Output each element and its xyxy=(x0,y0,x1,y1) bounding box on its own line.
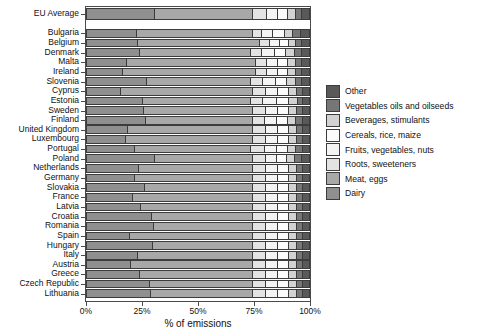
bar-row[interactable] xyxy=(86,183,310,192)
bar-latvia[interactable] xyxy=(86,203,310,212)
legend-item[interactable]: Meat, eggs xyxy=(326,172,476,187)
y-axis-label-portugal: Portugal xyxy=(0,144,79,153)
bar-ireland[interactable] xyxy=(86,68,310,77)
legend-item[interactable]: Fruits, vegetables, nuts xyxy=(326,142,476,157)
bar-row[interactable] xyxy=(86,39,310,48)
bar-row[interactable] xyxy=(86,77,310,86)
bar-row[interactable] xyxy=(86,97,310,106)
bar-row-eu-average[interactable] xyxy=(86,8,310,20)
bar-row[interactable] xyxy=(86,212,310,221)
bar-row[interactable] xyxy=(86,289,310,298)
bar-segment-fruits-vegetables-nuts xyxy=(263,98,276,105)
bar-row[interactable] xyxy=(86,154,310,163)
bar-row[interactable] xyxy=(86,145,310,154)
bar-croatia[interactable] xyxy=(86,212,310,221)
bar-row[interactable] xyxy=(86,241,310,250)
bar-row[interactable] xyxy=(86,48,310,57)
bar-segment-roots-sweeteners xyxy=(253,242,265,249)
y-axis-tick xyxy=(81,217,85,218)
bar-segment-roots-sweeteners xyxy=(253,204,265,211)
bar-row[interactable] xyxy=(86,125,310,134)
x-axis-title: % of emissions xyxy=(85,318,311,329)
bar-denmark[interactable] xyxy=(86,48,310,57)
bar-row[interactable] xyxy=(86,135,310,144)
bar-cyprus[interactable] xyxy=(86,87,310,96)
bar-segment-dairy xyxy=(87,30,137,37)
bar-germany[interactable] xyxy=(86,174,310,183)
bar-romania[interactable] xyxy=(86,222,310,231)
bar-row[interactable] xyxy=(86,174,310,183)
bar-malta[interactable] xyxy=(86,58,310,67)
bar-segment-vegetables-oils-and-oilseeds xyxy=(296,40,303,47)
bar-bulgaria[interactable] xyxy=(86,29,310,38)
bar-row[interactable] xyxy=(86,260,310,269)
bar-netherlands[interactable] xyxy=(86,164,310,173)
bar-italy[interactable] xyxy=(86,251,310,260)
bar-segment-fruits-vegetables-nuts xyxy=(266,175,278,182)
bar-row[interactable] xyxy=(86,193,310,202)
bar-greece[interactable] xyxy=(86,270,310,279)
bar-luxembourg[interactable] xyxy=(86,135,310,144)
bar-segment-vegetables-oils-and-oilseeds xyxy=(295,49,303,56)
bar-segment-fruits-vegetables-nuts xyxy=(266,155,277,162)
bar-czech-republic[interactable] xyxy=(86,280,310,289)
bar-segment-dairy xyxy=(87,107,144,114)
bar-segment-beverages-stimulants xyxy=(289,88,297,95)
y-axis-label-poland: Poland xyxy=(0,154,79,163)
bar-row[interactable] xyxy=(86,87,310,96)
bar-segment-fruits-vegetables-nuts xyxy=(266,242,278,249)
bar-segment-other xyxy=(303,175,309,182)
bar-eu-average[interactable] xyxy=(86,8,310,20)
bar-austria[interactable] xyxy=(86,260,310,269)
bar-france[interactable] xyxy=(86,193,310,202)
bar-segment-roots-sweeteners xyxy=(253,184,265,191)
bar-united-kingdom[interactable] xyxy=(86,125,310,134)
legend-item[interactable]: Vegetables oils and oilseeds xyxy=(326,99,476,114)
bar-row[interactable] xyxy=(86,58,310,67)
bar-segment-fruits-vegetables-nuts xyxy=(266,213,278,220)
legend-item[interactable]: Dairy xyxy=(326,186,476,201)
bar-row[interactable] xyxy=(86,116,310,125)
bar-segment-roots-sweeteners xyxy=(251,98,263,105)
y-axis-label-slovenia: Slovenia xyxy=(0,77,79,86)
bar-finland[interactable] xyxy=(86,116,310,125)
bar-row[interactable] xyxy=(86,203,310,212)
bar-segment-vegetables-oils-and-oilseeds xyxy=(295,155,302,162)
bar-slovakia[interactable] xyxy=(86,183,310,192)
bar-row[interactable] xyxy=(86,280,310,289)
bar-segment-fruits-vegetables-nuts xyxy=(266,290,278,297)
y-axis-tick xyxy=(81,139,85,140)
x-axis-tick-label: 50% xyxy=(178,306,218,316)
legend-item[interactable]: Beverages, stimulants xyxy=(326,113,476,128)
bar-row[interactable] xyxy=(86,68,310,77)
bar-sweden[interactable] xyxy=(86,106,310,115)
y-axis-label-austria: Austria xyxy=(0,260,79,269)
bar-row[interactable] xyxy=(86,106,310,115)
bar-lithuania[interactable] xyxy=(86,289,310,298)
legend-item[interactable]: Roots, sweeteners xyxy=(326,157,476,172)
bar-row[interactable] xyxy=(86,222,310,231)
y-axis-tick xyxy=(81,120,85,121)
bar-portugal[interactable] xyxy=(86,145,310,154)
bar-segment-cereals-rice-maize xyxy=(277,146,288,153)
legend-swatch-other xyxy=(326,85,340,98)
bar-segment-other xyxy=(301,30,309,37)
bar-slovenia[interactable] xyxy=(86,77,310,86)
bar-belgium[interactable] xyxy=(86,39,310,48)
bar-row[interactable] xyxy=(86,251,310,260)
bar-row[interactable] xyxy=(86,29,310,38)
bar-segment-roots-sweeteners xyxy=(253,194,265,201)
bar-spain[interactable] xyxy=(86,232,310,241)
bar-hungary[interactable] xyxy=(86,241,310,250)
bar-segment-other xyxy=(303,98,309,105)
y-axis-label-croatia: Croatia xyxy=(0,212,79,221)
legend-item[interactable]: Other xyxy=(326,84,476,99)
bar-segment-dairy xyxy=(87,88,121,95)
bar-row[interactable] xyxy=(86,164,310,173)
bar-estonia[interactable] xyxy=(86,97,310,106)
bar-segment-dairy xyxy=(87,165,139,172)
legend-item[interactable]: Cereals, rice, maize xyxy=(326,128,476,143)
bar-poland[interactable] xyxy=(86,154,310,163)
bar-row[interactable] xyxy=(86,232,310,241)
bar-row[interactable] xyxy=(86,270,310,279)
